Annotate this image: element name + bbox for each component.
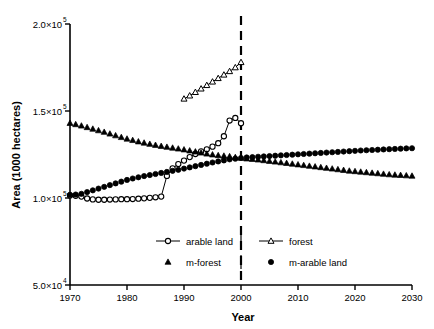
legend-label: m-arable land [289,257,347,268]
marker-open-circle [210,144,215,149]
marker-filled-circle [164,169,169,174]
marker-filled-circle [268,259,273,264]
marker-open-circle [153,195,158,200]
marker-open-circle [142,196,147,201]
marker-filled-circle [313,151,318,156]
marker-filled-circle [318,150,323,155]
marker-filled-circle [352,148,357,153]
svg-text:5: 5 [63,16,67,23]
legend-label: m-forest [186,257,221,268]
marker-filled-circle [187,165,192,170]
marker-filled-circle [159,170,164,175]
marker-filled-circle [153,171,158,176]
marker-filled-circle [130,176,135,181]
marker-filled-circle [341,149,346,154]
svg-text:5: 5 [63,190,67,197]
x-tick-label: 2030 [401,292,422,303]
marker-filled-circle [79,191,84,196]
marker-filled-circle [364,148,369,153]
marker-open-circle [216,141,221,146]
svg-text:5: 5 [63,103,67,110]
svg-text:1.0×10: 1.0×10 [33,193,62,204]
marker-filled-circle [136,175,141,180]
x-tick-label: 1990 [173,292,194,303]
marker-open-circle [181,158,186,163]
marker-filled-circle [375,147,380,152]
marker-filled-circle [170,168,175,173]
marker-filled-circle [233,156,238,161]
marker-filled-circle [221,158,226,163]
marker-filled-circle [227,157,232,162]
marker-open-circle [221,134,226,139]
marker-filled-circle [113,181,118,186]
marker-filled-circle [124,177,129,182]
marker-open-circle [102,197,107,202]
marker-open-circle [238,121,243,126]
marker-filled-circle [267,153,272,158]
marker-filled-circle [284,152,289,157]
y-tick-label: 1.0×105 [33,190,67,204]
marker-filled-circle [73,192,78,197]
marker-open-circle [165,238,170,243]
marker-filled-circle [404,146,409,151]
marker-open-circle [124,197,129,202]
marker-filled-circle [216,159,221,164]
marker-filled-circle [238,155,243,160]
area-line-chart: 5.0×1041.0×1051.5×1052.0×105 19701980199… [0,0,434,329]
marker-filled-circle [85,189,90,194]
x-tick-label: 2010 [287,292,308,303]
marker-open-circle [136,196,141,201]
marker-filled-circle [96,186,101,191]
marker-filled-circle [119,179,124,184]
marker-open-circle [176,161,181,166]
x-axis-title: Year [231,311,255,323]
marker-filled-circle [204,161,209,166]
marker-filled-circle [409,146,414,151]
marker-filled-circle [370,147,375,152]
marker-open-circle [85,196,90,201]
legend-label: arable land [186,236,233,247]
y-axis-title: Area (1000 hectares) [10,101,22,209]
x-tick-label: 1970 [59,292,80,303]
marker-filled-circle [358,148,363,153]
marker-filled-circle [335,149,340,154]
marker-open-circle [90,197,95,202]
marker-filled-circle [90,188,95,193]
chart-figure: 5.0×1041.0×1051.5×1052.0×105 19701980199… [0,0,434,329]
marker-filled-circle [107,183,112,188]
marker-filled-circle [392,146,397,151]
marker-open-circle [107,197,112,202]
marker-filled-circle [273,153,278,158]
marker-open-circle [130,196,135,201]
marker-open-circle [147,195,152,200]
marker-filled-circle [181,166,186,171]
svg-text:2.0×10: 2.0×10 [33,19,62,30]
marker-filled-circle [324,150,329,155]
x-tick-label: 2000 [230,292,251,303]
marker-open-circle [159,194,164,199]
y-tick-label: 1.5×105 [33,103,67,117]
marker-filled-circle [142,173,147,178]
marker-filled-circle [381,147,386,152]
marker-filled-circle [387,147,392,152]
x-tick-label: 1980 [116,292,137,303]
marker-open-circle [113,197,118,202]
legend-label: forest [289,236,313,247]
marker-filled-circle [210,160,215,165]
marker-filled-circle [147,172,152,177]
marker-filled-circle [301,151,306,156]
marker-filled-circle [67,192,72,197]
marker-filled-circle [193,164,198,169]
marker-open-circle [227,118,232,123]
marker-filled-circle [398,146,403,151]
marker-open-circle [187,155,192,160]
marker-filled-circle [307,151,312,156]
y-tick-label: 2.0×105 [33,16,67,30]
marker-filled-circle [347,149,352,154]
marker-filled-circle [330,150,335,155]
marker-open-circle [233,115,238,120]
marker-open-circle [96,197,101,202]
svg-text:1.5×10: 1.5×10 [33,106,62,117]
marker-filled-circle [199,162,204,167]
marker-filled-circle [256,154,261,159]
